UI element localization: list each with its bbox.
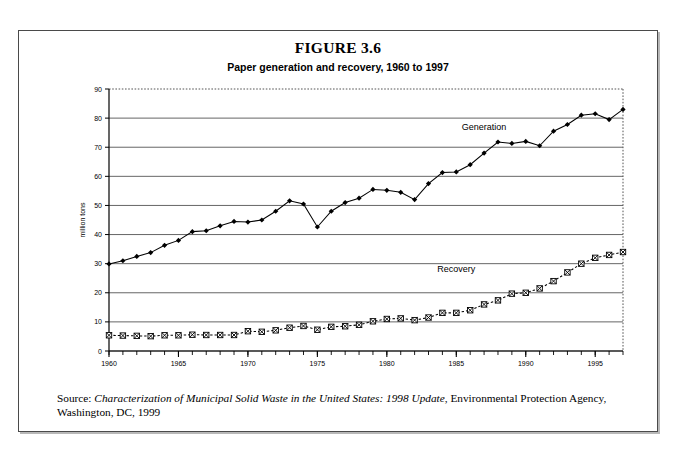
gridlines-group [109,89,623,351]
data-point-marker [384,188,389,193]
chart-subtitle: Paper generation and recovery, 1960 to 1… [19,61,657,73]
x-tick-label: 1985 [449,360,465,367]
line-chart-svg: 0102030405060708090 19601965197019751980… [75,81,635,386]
series-line-generation [109,109,623,264]
y-axis-title: million tons [79,202,86,238]
x-tick-label: 1980 [379,360,395,367]
data-point-marker [176,238,181,243]
data-point-marker [454,169,459,174]
data-point-marker [259,217,264,222]
y-tick-label: 40 [94,231,102,238]
data-point-marker [120,258,125,263]
data-point-marker [190,229,195,234]
data-point-marker [343,200,348,205]
y-tick-label: 20 [94,289,102,296]
series-inline-labels: GenerationRecovery [437,122,506,275]
figure-frame: FIGURE 3.6 Paper generation and recovery… [18,30,658,432]
y-axis-tick-labels: 0102030405060708090 [94,86,102,355]
x-tick-label: 1970 [240,360,256,367]
source-title-italic: Characterization of Municipal Solid Wast… [94,392,444,404]
source-prefix: Source: [57,392,94,404]
data-point-marker [148,250,153,255]
series-line-recovery [109,252,623,336]
x-tick-label: 1995 [587,360,603,367]
data-point-marker [106,261,111,266]
data-point-marker [593,111,598,116]
figure-number-title: FIGURE 3.6 [19,39,657,57]
data-point-marker [398,190,403,195]
y-tick-label: 10 [94,318,102,325]
y-tick-label: 70 [94,144,102,151]
axes-group [109,89,623,351]
data-series-group [106,107,625,339]
x-axis-tick-labels: 19601965197019751980198519901995 [101,360,603,367]
data-point-marker [162,243,167,248]
data-point-marker [134,254,139,259]
y-tick-label: 50 [94,202,102,209]
data-point-marker [370,187,375,192]
source-note: Source: Characterization of Municipal So… [57,391,632,420]
tick-marks-group [105,89,623,357]
x-tick-label: 1975 [310,360,326,367]
data-point-marker [245,219,250,224]
data-point-marker [231,219,236,224]
series-label-generation: Generation [462,122,507,132]
y-tick-label: 90 [94,86,102,93]
data-point-marker [523,139,528,144]
y-tick-label: 80 [94,115,102,122]
x-tick-label: 1960 [101,360,117,367]
chart-plot-area: 0102030405060708090 19601965197019751980… [75,81,635,386]
y-axis-title-text: million tons [79,202,86,238]
data-point-marker [509,141,514,146]
y-tick-label: 30 [94,260,102,267]
data-point-marker [218,223,223,228]
data-point-marker [204,228,209,233]
x-tick-label: 1965 [171,360,187,367]
data-point-marker [356,196,361,201]
x-tick-label: 1990 [518,360,534,367]
y-tick-label: 60 [94,173,102,180]
y-tick-label: 0 [98,348,102,355]
series-label-recovery: Recovery [437,264,476,274]
